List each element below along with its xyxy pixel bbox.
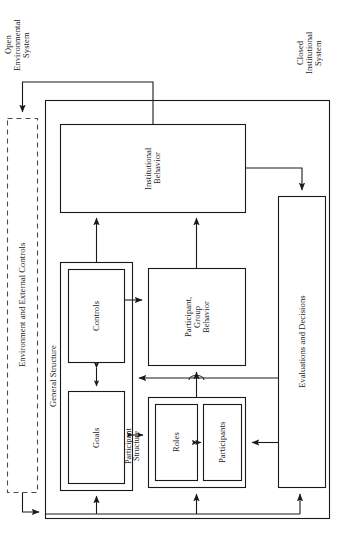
institutional-behavior-label: Institutional Behavior — [131, 125, 175, 212]
controls-label: Controls — [69, 270, 124, 362]
roles-label: Roles — [156, 405, 197, 480]
connector-institutional-to-environment — [23, 82, 154, 125]
evaluations-and-decisions-label: Evaluations and Decisions — [279, 197, 325, 487]
participant-structure-label: Participant Structure — [126, 390, 140, 502]
connector-institutional-to-evaluations — [246, 168, 303, 190]
general-structure-label: General Structure — [46, 263, 60, 490]
participants-label: Participants — [204, 405, 241, 480]
diagram-canvas: Open Environmental System Closed Institu… — [0, 0, 344, 546]
participant-group-behavior-label: Participant, Group Behavior — [149, 269, 245, 365]
connector-environment-to-system — [23, 493, 40, 513]
open-environmental-system-label: Open Environmental System — [4, 14, 38, 76]
closed-institutional-system-label: Closed Institutional System — [296, 22, 330, 84]
environment-external-controls-label: Environment and External Controls — [8, 118, 37, 492]
goals-label: Goals — [69, 392, 124, 483]
